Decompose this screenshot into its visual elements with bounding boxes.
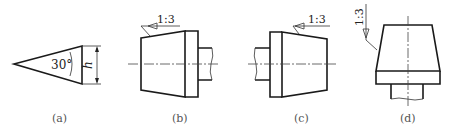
panel-c: 1:3 (c) — [248, 13, 336, 125]
panel-b: 1:3 (b) — [128, 13, 220, 125]
caption-b: (b) — [172, 112, 188, 125]
shaft — [391, 84, 423, 99]
caption-a: (a) — [52, 112, 67, 125]
break-line — [391, 98, 423, 100]
angle-label: 30° — [51, 58, 72, 72]
dimension-label-h: h — [81, 61, 95, 69]
caption-d: (d) — [400, 112, 416, 125]
taper-label: 1:3 — [157, 13, 175, 26]
taper-label: 1:3 — [353, 8, 366, 26]
taper-drawing-canvas: 30° h (a) 1:3 (b) 1:3 (c) 1:3 — [0, 0, 452, 137]
cone-body — [282, 32, 327, 97]
taper-label: 1:3 — [308, 13, 326, 26]
panel-a: 30° h (a) — [14, 46, 101, 125]
panel-d: 1:3 (d) — [353, 4, 440, 125]
leader-line — [366, 4, 377, 50]
flange — [270, 32, 282, 97]
caption-c: (c) — [294, 112, 309, 125]
